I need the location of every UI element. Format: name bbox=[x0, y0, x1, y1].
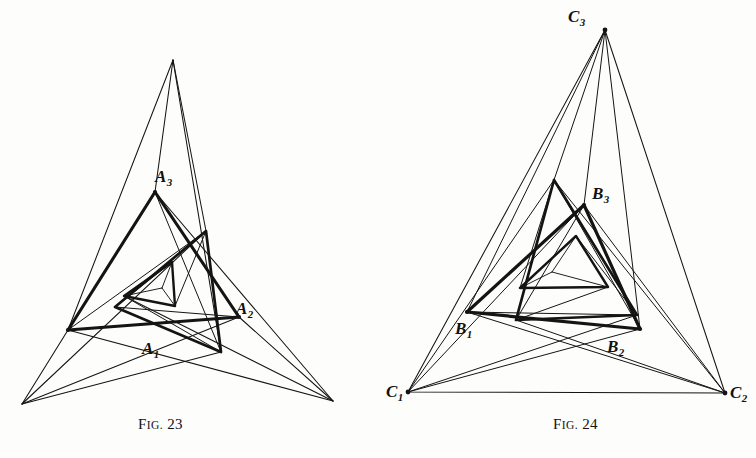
vertex-label-B1: B1 bbox=[455, 320, 472, 337]
vertex-label-C3: C3 bbox=[568, 8, 585, 25]
vertex-label-C2: C2 bbox=[730, 384, 747, 401]
vertex-label-A1-base: A bbox=[142, 339, 153, 358]
vertex-label-C3-base: C bbox=[568, 7, 579, 26]
figure-24-caption: FIG. 24 bbox=[553, 416, 598, 433]
figure-23-panel: A1 A2 A3 FIG. 23 bbox=[0, 0, 378, 458]
vertex-label-B3: B3 bbox=[592, 185, 609, 202]
vertex-label-A2-sub: 2 bbox=[248, 308, 254, 320]
figure-24-caption-number: 24 bbox=[582, 416, 598, 432]
vertex-label-B3-base: B bbox=[592, 184, 603, 203]
figure-24-caption-word: IG. bbox=[562, 419, 578, 431]
vertex-label-B2: B2 bbox=[607, 338, 624, 355]
vertex-label-B1-sub: 1 bbox=[467, 328, 473, 340]
figure-24-caption-prefix: F bbox=[553, 416, 562, 432]
vertex-label-A2-base: A bbox=[236, 299, 247, 318]
vertex-label-A2: A2 bbox=[236, 300, 253, 317]
vertex-label-C1-base: C bbox=[386, 382, 397, 401]
vertex-label-A3-base: A bbox=[155, 167, 166, 186]
vertex-label-C1-sub: 1 bbox=[398, 391, 404, 403]
vertex-label-A3: A3 bbox=[155, 168, 172, 185]
figure-page: A1 A2 A3 FIG. 23 C1 C2 C3 B1 B2 B3 bbox=[0, 0, 756, 458]
vertex-label-C3-sub: 3 bbox=[580, 16, 586, 28]
vertex-label-B2-sub: 2 bbox=[619, 346, 625, 358]
figure-23-caption: FIG. 23 bbox=[138, 416, 183, 433]
figure-24-panel: C1 C2 C3 B1 B2 B3 FIG. 24 bbox=[378, 0, 756, 458]
figure-23-caption-number: 23 bbox=[167, 416, 183, 432]
vertex-label-C1: C1 bbox=[386, 383, 403, 400]
vertex-label-A3-sub: 3 bbox=[167, 176, 173, 188]
vertex-label-B1-base: B bbox=[455, 319, 466, 338]
figure-23-caption-word: IG. bbox=[147, 419, 163, 431]
vertex-label-C2-sub: 2 bbox=[742, 392, 748, 404]
vertex-label-B3-sub: 3 bbox=[604, 193, 610, 205]
vertex-label-B2-base: B bbox=[607, 337, 618, 356]
figure-23-caption-prefix: F bbox=[138, 416, 147, 432]
vertex-label-A1: A1 bbox=[142, 340, 159, 357]
vertex-label-A1-sub: 1 bbox=[154, 348, 160, 360]
vertex-label-C2-base: C bbox=[730, 383, 741, 402]
